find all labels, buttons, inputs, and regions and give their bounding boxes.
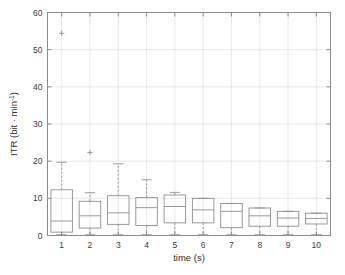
boxplot-canvas: 0102030405060 12345678910 time (s) ITR (…: [0, 0, 345, 275]
y-tick-label: 0: [38, 231, 43, 241]
y-axis-title-text: ITR (bit · min-1): [8, 92, 19, 156]
y-axis-title: ITR (bit · min-1): [8, 92, 19, 156]
y-tick-label: 60: [33, 8, 43, 18]
x-tick-label: 3: [116, 240, 121, 250]
y-tick-label: 20: [33, 156, 43, 166]
x-tick-label: 4: [144, 240, 149, 250]
x-tick-label: 1: [59, 240, 64, 250]
x-tick-label: 8: [257, 240, 262, 250]
y-tick-label: 10: [33, 193, 43, 203]
grid-lines: [48, 13, 331, 236]
x-tick-label: 10: [312, 240, 322, 250]
boxplot-figure: 0102030405060 12345678910 time (s) ITR (…: [0, 0, 345, 275]
box-group: [136, 180, 158, 235]
x-tick-label: 6: [201, 240, 206, 250]
x-axis-title-text: time (s): [173, 252, 205, 263]
x-tick-label: 9: [286, 240, 291, 250]
x-axis-title: time (s): [173, 252, 205, 263]
y-tick-label: 40: [33, 82, 43, 92]
x-tick-label: 5: [172, 240, 177, 250]
x-tick-label: 2: [88, 240, 93, 250]
y-tick-label: 30: [33, 119, 43, 129]
y-tick-label: 50: [33, 45, 43, 55]
x-tick-label: 7: [229, 240, 234, 250]
y-tick-labels: 0102030405060: [33, 8, 43, 241]
x-tick-labels: 12345678910: [59, 240, 321, 250]
